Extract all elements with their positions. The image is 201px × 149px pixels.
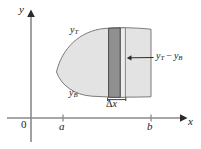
secondary-strip-group	[120, 28, 125, 98]
y-axis-label: y	[19, 3, 24, 15]
height-difference-operator: −	[166, 50, 172, 61]
secondary-strip-shape	[120, 28, 125, 98]
top-curve-label-subscript: T	[74, 28, 78, 35]
x-tick-label-b: b	[147, 120, 153, 132]
top-curve-label: yT	[70, 24, 78, 35]
delta-x-label: Δx	[106, 98, 117, 109]
figure-svg	[0, 0, 201, 149]
x-tick-label-a: a	[59, 120, 65, 132]
representative-rectangle-group	[109, 28, 121, 97]
x-axis-label: x	[188, 115, 193, 127]
figure-canvas: y x 0 a b yT yB Δx yT−yB	[0, 0, 201, 149]
bottom-curve-label: yB	[69, 87, 78, 98]
y-axis-arrowhead	[27, 10, 35, 18]
origin-label: 0	[21, 118, 27, 130]
delta-x-variable: x	[112, 98, 116, 109]
height-difference-minuend-subscript: T	[160, 54, 164, 61]
x-axis-arrowhead	[180, 114, 188, 122]
bottom-curve-label-subscript: B	[73, 91, 77, 98]
height-difference-subtrahend-subscript: B	[178, 54, 182, 61]
height-difference-label: yT−yB	[156, 50, 182, 61]
representative-rectangle-shape	[109, 28, 121, 97]
